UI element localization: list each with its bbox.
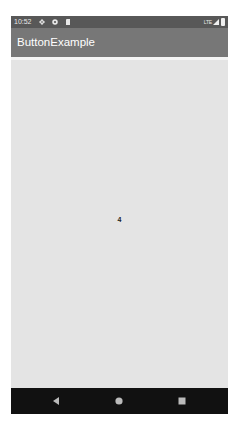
app-title: ButtonExample <box>17 35 95 49</box>
home-icon[interactable] <box>114 396 124 406</box>
signal-icon <box>213 19 219 25</box>
navigation-bar <box>11 388 228 414</box>
counter-text: 4 <box>11 216 228 223</box>
network-type: LTE <box>204 16 212 28</box>
main-content: 4 <box>11 60 228 388</box>
gear-icon <box>39 19 45 25</box>
battery-icon <box>221 18 225 26</box>
status-time: 10:52 <box>14 16 32 28</box>
app-bar: ButtonExample <box>11 28 228 57</box>
sdcard-icon <box>65 19 71 25</box>
back-icon[interactable] <box>51 396 61 406</box>
phone-screen: 10:52 LTE ButtonExample 4 <box>11 16 228 414</box>
shield-icon <box>52 19 58 25</box>
status-bar: 10:52 LTE <box>11 16 228 28</box>
recents-icon[interactable] <box>177 396 187 406</box>
